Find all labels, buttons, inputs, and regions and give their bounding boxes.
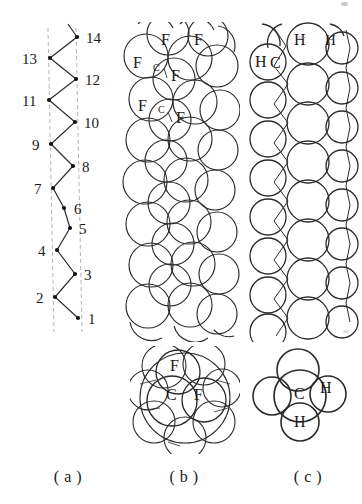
caption-a: ( a ) — [18, 468, 118, 486]
atom-number-12: 12 — [85, 73, 100, 88]
atom-number-7: 7 — [34, 182, 42, 197]
panel-a-svg — [0, 22, 118, 342]
panel-b-svg — [118, 22, 240, 342]
atom-number-10: 10 — [84, 116, 99, 131]
atom-number-1: 1 — [88, 312, 96, 327]
panel-b-cf2-cross-section: F C F — [130, 346, 240, 454]
scan-speck-upper — [297, 36, 306, 39]
atom-number-4: 4 — [38, 244, 46, 259]
caption-b: ( b ) — [134, 468, 234, 486]
atom-number-6: 6 — [74, 202, 82, 217]
atom-number-3: 3 — [84, 268, 92, 283]
cf2-molecule-svg — [130, 346, 240, 454]
panel-c-polyethylene-chain: H H H C — [246, 22, 362, 342]
panel-c-svg — [246, 22, 362, 342]
guide-line-right — [76, 28, 82, 332]
atom-vertices — [47, 35, 80, 320]
atom-number-9: 9 — [32, 138, 40, 153]
panel-c-ch2-cross-section: C H H — [252, 346, 362, 454]
scan-speck-top — [341, 2, 348, 6]
scan-speck-lower — [343, 330, 349, 333]
caption-c: ( c ) — [258, 468, 358, 486]
atom-number-14: 14 — [86, 31, 101, 46]
figure-root: 14 12 10 8 6 5 3 1 13 11 9 7 4 2 — [0, 0, 362, 504]
atom-number-13: 13 — [22, 52, 37, 67]
panel-b-ptfe-helix: F F F C F F C F — [118, 22, 240, 342]
ch2-molecule-svg — [252, 346, 362, 454]
atom-number-11: 11 — [22, 94, 36, 109]
guide-line-left — [48, 28, 54, 332]
atom-number-2: 2 — [36, 291, 44, 306]
panel-a-backbone-zigzag: 14 12 10 8 6 5 3 1 13 11 9 7 4 2 — [0, 22, 118, 342]
atom-number-5: 5 — [79, 222, 87, 237]
atom-number-8: 8 — [82, 160, 90, 175]
